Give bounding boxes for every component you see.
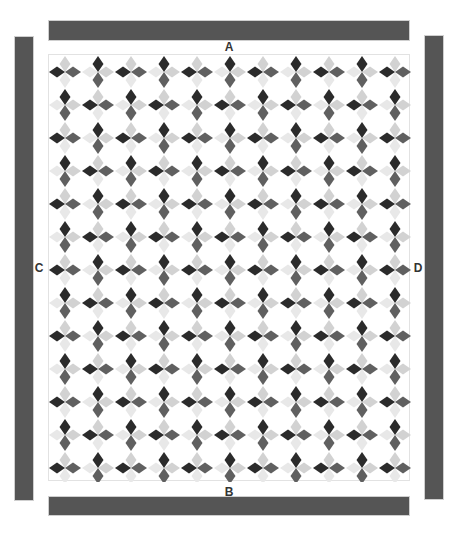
star-block-horizontal xyxy=(379,386,411,418)
star-block-horizontal xyxy=(313,56,345,88)
star-block-horizontal xyxy=(346,221,378,253)
star-block-horizontal xyxy=(379,56,411,88)
star-block-vertical xyxy=(82,254,114,286)
star-block-horizontal xyxy=(280,353,312,385)
star-block-horizontal xyxy=(247,56,279,88)
star-block-horizontal xyxy=(379,452,411,482)
star-block-vertical xyxy=(346,386,378,418)
star-block-vertical xyxy=(115,89,147,121)
star-block-vertical xyxy=(49,155,81,187)
star-block-horizontal xyxy=(313,320,345,352)
star-block-horizontal xyxy=(313,254,345,286)
star-block-vertical xyxy=(346,56,378,88)
star-block-horizontal xyxy=(82,419,114,451)
star-block-vertical xyxy=(346,122,378,154)
star-block-horizontal xyxy=(115,320,147,352)
star-block-vertical xyxy=(49,287,81,319)
star-block-horizontal xyxy=(82,287,114,319)
star-block-horizontal xyxy=(313,452,345,482)
star-block-horizontal xyxy=(148,353,180,385)
star-block-vertical xyxy=(181,89,213,121)
border-strip-c xyxy=(15,37,33,500)
star-block-vertical xyxy=(346,452,378,482)
label-a: A xyxy=(219,41,239,53)
star-block-vertical xyxy=(148,386,180,418)
star-block-horizontal xyxy=(181,320,213,352)
star-block-vertical xyxy=(214,122,246,154)
star-block-vertical xyxy=(280,386,312,418)
star-block-vertical xyxy=(214,386,246,418)
star-block-horizontal xyxy=(280,287,312,319)
star-block-horizontal xyxy=(181,122,213,154)
star-block-horizontal xyxy=(346,419,378,451)
star-block-horizontal xyxy=(115,188,147,220)
star-block-horizontal xyxy=(379,122,411,154)
star-block-horizontal xyxy=(379,188,411,220)
star-block-vertical xyxy=(379,419,411,451)
star-block-horizontal xyxy=(346,155,378,187)
star-block-vertical xyxy=(313,155,345,187)
label-d: D xyxy=(411,262,425,274)
label-c: C xyxy=(32,262,46,274)
star-block-horizontal xyxy=(115,386,147,418)
star-block-vertical xyxy=(181,287,213,319)
star-block-horizontal xyxy=(247,320,279,352)
star-block-vertical xyxy=(148,188,180,220)
star-block-horizontal xyxy=(346,353,378,385)
star-block-horizontal xyxy=(214,287,246,319)
star-block-horizontal xyxy=(313,386,345,418)
star-block-horizontal xyxy=(49,188,81,220)
border-strip-b xyxy=(49,497,409,515)
star-block-horizontal xyxy=(82,353,114,385)
star-block-horizontal xyxy=(280,221,312,253)
star-block-horizontal xyxy=(49,386,81,418)
star-block-vertical xyxy=(82,452,114,482)
star-block-vertical xyxy=(313,287,345,319)
star-block-horizontal xyxy=(214,221,246,253)
star-block-vertical xyxy=(379,155,411,187)
star-block-vertical xyxy=(313,89,345,121)
star-block-vertical xyxy=(214,254,246,286)
star-block-horizontal xyxy=(49,452,81,482)
star-block-vertical xyxy=(346,254,378,286)
star-block-horizontal xyxy=(280,89,312,121)
star-block-vertical xyxy=(82,320,114,352)
star-block-vertical xyxy=(115,221,147,253)
star-block-horizontal xyxy=(181,188,213,220)
star-block-vertical xyxy=(247,419,279,451)
star-block-horizontal xyxy=(148,287,180,319)
star-block-horizontal xyxy=(214,353,246,385)
label-b: B xyxy=(219,486,239,498)
star-block-vertical xyxy=(148,320,180,352)
star-block-horizontal xyxy=(280,155,312,187)
star-block-vertical xyxy=(214,320,246,352)
star-block-vertical xyxy=(280,56,312,88)
star-block-vertical xyxy=(280,188,312,220)
star-block-vertical xyxy=(280,122,312,154)
star-block-vertical xyxy=(280,254,312,286)
star-block-vertical xyxy=(379,89,411,121)
quilt-center xyxy=(48,54,410,481)
star-block-vertical xyxy=(247,89,279,121)
star-block-vertical xyxy=(280,320,312,352)
star-block-horizontal xyxy=(115,452,147,482)
star-block-vertical xyxy=(181,155,213,187)
star-block-horizontal xyxy=(280,419,312,451)
star-block-horizontal xyxy=(181,56,213,88)
star-block-vertical xyxy=(148,56,180,88)
star-block-vertical xyxy=(115,353,147,385)
star-block-vertical xyxy=(115,419,147,451)
star-block-vertical xyxy=(49,221,81,253)
star-block-horizontal xyxy=(313,188,345,220)
star-block-horizontal xyxy=(49,254,81,286)
star-block-vertical xyxy=(181,353,213,385)
star-block-vertical xyxy=(148,254,180,286)
star-block-horizontal xyxy=(181,386,213,418)
star-block-horizontal xyxy=(379,320,411,352)
star-block-horizontal xyxy=(247,122,279,154)
star-block-vertical xyxy=(247,287,279,319)
star-block-horizontal xyxy=(49,122,81,154)
star-block-horizontal xyxy=(247,254,279,286)
star-block-vertical xyxy=(181,419,213,451)
star-block-horizontal xyxy=(247,188,279,220)
